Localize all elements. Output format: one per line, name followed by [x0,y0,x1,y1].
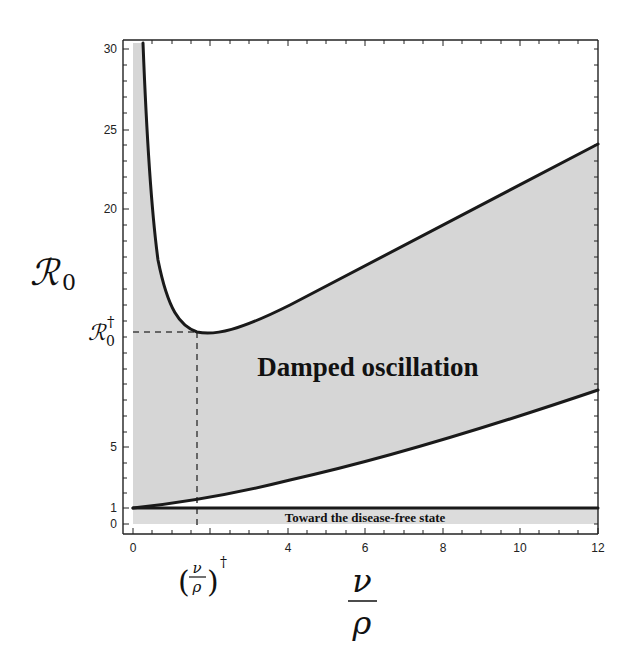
x-axis-label: ν ρ [348,562,377,642]
x-tick-6: 6 [362,541,369,555]
region-label-damped-oscillation: Damped oscillation [257,352,478,382]
y-tick-25: 25 [104,123,118,137]
x-axis-ticks [133,528,598,534]
x-special-den: ρ [192,578,202,596]
x-tick-10: 10 [513,541,527,555]
x-axis-den: ρ [352,604,372,642]
y-tick-5: 5 [110,440,117,454]
y-tick-labels: 30 25 20 5 1 0 [104,42,118,531]
x-special-sup: † [220,554,227,570]
y-special-tick-label: ℛ 0 † [88,313,115,349]
r0-dagger-main: ℛ [88,320,107,345]
region-label-disease-free: Toward the disease-free state [285,510,446,525]
y-axis-ticks [123,49,129,524]
right-paren: ) [207,564,219,599]
x-tick-4: 4 [285,541,292,555]
r0-dagger-sub: 0 [106,333,115,349]
left-paren: ( [178,564,190,599]
y-tick-20: 20 [104,202,118,216]
x-special-num: ν [192,559,201,577]
y-tick-30: 30 [104,42,118,56]
y-axis-label: ℛ 0 [30,252,76,295]
damped-region [133,43,598,508]
y-tick-1: 1 [110,501,117,515]
x-tick-12: 12 [591,541,605,555]
r0-dagger-sup: † [107,313,115,331]
y-axis-label-main: ℛ [30,252,61,293]
x-special-tick-label: ( ν ρ ) † [178,554,227,599]
x-tick-8: 8 [440,541,447,555]
y-tick-0: 0 [110,517,117,531]
x-tick-labels: 0 4 6 8 10 12 [130,541,605,555]
x-tick-0: 0 [130,541,137,555]
shaded-regions [133,43,598,524]
x-axis-num: ν [352,562,371,600]
y-axis-label-sub: 0 [62,270,76,295]
x-axis-ticks-top [152,40,578,46]
chart: 30 25 20 5 1 0 0 4 6 8 10 12 ℛ 0 ℛ 0 † (… [0,0,640,650]
